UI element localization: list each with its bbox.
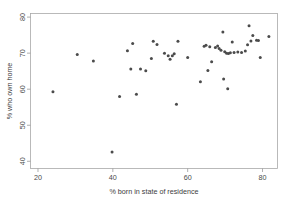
data-point: [118, 95, 121, 98]
data-point: [251, 34, 254, 37]
x-tick-label: 60: [184, 173, 192, 182]
x-tick-label: 40: [109, 173, 117, 182]
y-tick-label: 70: [18, 49, 27, 57]
data-point: [152, 40, 155, 43]
data-point: [175, 103, 178, 106]
data-points-layer: [51, 24, 270, 153]
data-point: [167, 54, 170, 57]
data-point: [199, 80, 202, 83]
data-point: [219, 49, 222, 52]
plot-frame-rect: [31, 14, 278, 169]
data-point: [176, 40, 179, 43]
y-axis-ticks: 4050607080: [18, 13, 31, 165]
data-point: [221, 30, 224, 33]
y-tick-label: 40: [18, 157, 27, 165]
data-point: [259, 56, 262, 59]
data-point: [155, 43, 158, 46]
x-tick-label: 20: [34, 173, 42, 182]
data-point: [139, 68, 142, 71]
data-point: [216, 44, 219, 47]
y-tick-label: 50: [18, 121, 27, 129]
data-point: [206, 69, 209, 72]
y-tick-label: 60: [18, 85, 27, 93]
data-point: [129, 68, 132, 71]
scatter-chart: 20406080 4050607080 % born in state of r…: [0, 0, 293, 202]
data-point: [248, 24, 251, 27]
data-point: [240, 51, 243, 54]
data-point: [205, 44, 208, 47]
data-point: [229, 51, 232, 54]
y-tick-label: 80: [18, 13, 27, 21]
data-point: [236, 51, 239, 54]
data-point: [186, 56, 189, 59]
data-point: [111, 150, 114, 153]
data-point: [163, 52, 166, 55]
data-point: [222, 78, 225, 81]
data-point: [267, 35, 270, 38]
data-point: [246, 43, 249, 46]
plot-frame: [31, 14, 278, 169]
data-point: [169, 58, 172, 61]
x-axis-ticks: 20406080: [34, 169, 267, 182]
y-axis-title: % who own home: [5, 63, 14, 120]
data-point: [131, 42, 134, 45]
data-point: [92, 60, 95, 63]
data-point: [249, 39, 252, 42]
data-point: [257, 39, 260, 42]
data-point: [150, 57, 153, 60]
data-point: [135, 93, 138, 96]
data-point: [233, 51, 236, 54]
x-tick-label: 80: [259, 173, 267, 182]
data-point: [51, 90, 54, 93]
data-point: [126, 49, 129, 52]
data-point: [226, 87, 229, 90]
x-axis-title: % born in state of residence: [109, 187, 198, 196]
data-point: [244, 49, 247, 52]
data-point: [144, 69, 147, 72]
data-point: [76, 53, 79, 56]
data-point: [231, 40, 234, 43]
plot-canvas: 20406080 4050607080 % born in state of r…: [0, 0, 293, 202]
data-point: [173, 52, 176, 55]
data-point: [208, 45, 211, 48]
data-point: [210, 60, 213, 63]
